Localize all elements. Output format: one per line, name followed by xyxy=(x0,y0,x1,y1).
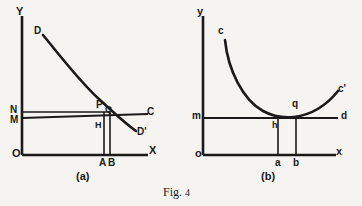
panel-b-origin-label: o xyxy=(195,148,202,159)
figure-caption: Fig. 4 xyxy=(163,186,190,198)
panel-a-axis-label-y: Y xyxy=(16,6,23,17)
figure-drawing xyxy=(0,0,362,206)
panel-b-axis-label-y: y xyxy=(197,6,203,17)
panel-a-point-label-b: B xyxy=(108,158,115,168)
panel-a-point-label-q: Q xyxy=(105,105,112,114)
panel-a-point-label-c: C xyxy=(147,107,154,117)
panel-a-origin-label: O xyxy=(12,148,21,159)
panel-a-axis-label-x: X xyxy=(149,145,156,156)
panel-a-point-label-h: H xyxy=(95,121,102,130)
panel-a-point-label-a: A xyxy=(99,158,106,168)
panel-b-drawing xyxy=(203,16,338,155)
panel-b-point-label-m: m xyxy=(192,111,201,121)
panel-a-curve-start-label: D xyxy=(34,26,41,36)
panel-a-curve-end-label: D' xyxy=(137,127,147,137)
panel-b-point-label-a: a xyxy=(275,158,281,168)
panel-b-cost-curve xyxy=(225,40,338,117)
panel-b-point-label-q: q xyxy=(292,99,298,109)
panel-b-caption: (b) xyxy=(261,171,275,182)
panel-a-point-label-p: P xyxy=(96,100,103,110)
panel-b-curve-start-label: c xyxy=(218,26,224,36)
panel-b-axis-label-x: x xyxy=(336,146,342,157)
panel-b-point-label-b: b xyxy=(293,158,299,168)
panel-a-point-label-m: M xyxy=(10,115,18,125)
panel-b-curve-end-label: c' xyxy=(338,84,346,94)
panel-a-line-mc xyxy=(22,114,148,118)
panel-b-point-label-h: h xyxy=(272,121,278,130)
figure-container: Y X O D D' N M P Q C H A B (a) y x o c c… xyxy=(0,0,362,206)
panel-a-caption: (a) xyxy=(76,171,89,182)
figure-caption-prefix: Fig. xyxy=(163,185,182,199)
panel-b-point-label-d: d xyxy=(341,111,347,121)
figure-caption-number: 4 xyxy=(185,187,190,198)
panel-a-drawing xyxy=(22,16,148,155)
